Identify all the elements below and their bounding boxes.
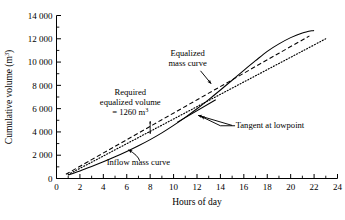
x-tick-label: 2 xyxy=(78,182,83,192)
y-tick-label: 0 xyxy=(48,174,53,184)
chart-figure: 02 0004 0006 0008 00010 00012 00014 0000… xyxy=(0,0,345,220)
mass-curve-chart: 02 0004 0006 0008 00010 00012 00014 0000… xyxy=(0,0,345,220)
x-tick-label: 10 xyxy=(169,182,179,192)
y-tick-label: 2 000 xyxy=(32,150,53,160)
y-tick-label: 12 000 xyxy=(28,34,53,44)
required-equalized-volume-label-line-0: Required xyxy=(115,87,147,97)
x-tick-label: 8 xyxy=(148,182,153,192)
x-tick-label: 0 xyxy=(54,182,59,192)
y-axis-title-paren: ) xyxy=(4,50,15,53)
required-equalized-volume-label-exponent: 3 xyxy=(145,106,148,113)
inflow-mass-curve-label: Inflow mass curve xyxy=(107,150,171,167)
x-tick-label: 24 xyxy=(333,182,343,192)
axes-group: 02 0004 0006 0008 00010 00012 00014 0000… xyxy=(3,11,343,207)
required-equalized-volume-label-line-1: equalized volume xyxy=(100,97,161,107)
required-equalized-volume-label-line-2: = 1260 m3 xyxy=(112,106,148,117)
x-tick-label: 18 xyxy=(263,182,273,192)
y-tick-label: 8 000 xyxy=(32,81,53,91)
required-equalized-volume-label: Requiredequalized volume= 1260 m3 xyxy=(100,87,161,134)
equalized-mass-curve-label: Equalizedmass curve xyxy=(168,48,211,84)
x-tick-label: 22 xyxy=(310,182,319,192)
x-tick-label: 4 xyxy=(101,182,106,192)
x-tick-label: 14 xyxy=(216,182,226,192)
equalized-mass-curve-label-line-1: mass curve xyxy=(168,58,207,68)
x-tick-label: 16 xyxy=(239,182,249,192)
x-axis-title-text: Hours of day xyxy=(172,197,222,207)
y-tick-label: 10 000 xyxy=(28,57,53,67)
y-axis-title-text: Cumulative volume (m3) xyxy=(3,50,15,144)
equalized-mass-curve-label-line-0: Equalized xyxy=(170,48,205,58)
y-tick-label: 14 000 xyxy=(28,11,53,21)
tangent-at-lowpoint-label-line-0: Tangent at lowpoint xyxy=(236,120,305,130)
y-tick-label: 4 000 xyxy=(32,127,53,137)
x-tick-label: 12 xyxy=(193,182,202,192)
y-tick-label: 6 000 xyxy=(32,104,53,114)
x-tick-label: 6 xyxy=(125,182,130,192)
tangent-at-lowpoint-label-arrow xyxy=(198,115,232,125)
equalized-mass-curve-label-arrow xyxy=(201,71,212,84)
x-tick-label: 20 xyxy=(286,182,296,192)
